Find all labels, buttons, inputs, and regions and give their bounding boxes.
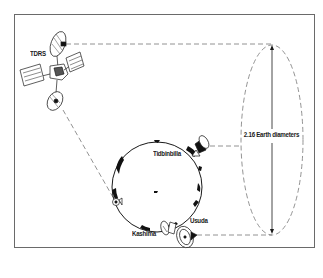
kashima-label: Kashima: [132, 229, 156, 238]
dimension-arrow: [270, 45, 274, 234]
tdrs-to-earth-line: [63, 110, 114, 199]
vlbi-diagram: [0, 0, 323, 278]
usuda-antenna-icon: [174, 224, 197, 250]
tidbinbilla-antenna-icon: [192, 134, 211, 156]
usuda-label: Usuda: [190, 216, 208, 225]
tdrs-satellite-icon: [20, 29, 84, 113]
dimension-label: 2.16 Earth diameters: [243, 130, 300, 139]
tdrs-label: TDRS: [30, 49, 46, 58]
tidbinbilla-label: Tidbinbilla: [153, 149, 181, 158]
